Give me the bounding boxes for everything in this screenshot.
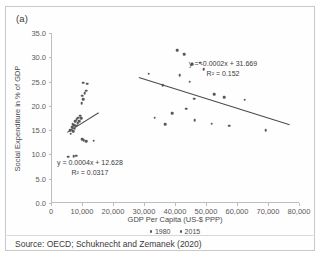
data-point-2015 [194, 119, 197, 122]
x-tick [144, 203, 145, 206]
data-point-2015 [210, 123, 213, 126]
data-point-2015 [176, 49, 179, 52]
x-tick [113, 203, 114, 206]
data-point-2015 [147, 73, 150, 76]
chart-legend: 19802015 [51, 228, 299, 235]
data-point-2015 [265, 129, 268, 132]
y-tick [49, 57, 52, 58]
y-tick [49, 82, 52, 83]
legend-marker-icon [150, 230, 153, 233]
x-tick [237, 203, 238, 206]
legend-item-1980[interactable]: 1980 [150, 228, 171, 235]
data-point-2015 [154, 116, 157, 119]
y-tick [49, 179, 52, 180]
y-axis-line [51, 33, 52, 203]
data-point-2015 [189, 80, 192, 83]
plot-frame: 0.05.010.015.020.025.030.035.0 010,00020… [51, 33, 299, 203]
data-point-2015 [185, 107, 188, 110]
x-tick [175, 203, 176, 206]
trendline-equation-2015: y = -0.0002x + 31.669R² = 0.152 [189, 59, 257, 79]
trendline-equation-1980: y = 0.0004x + 12.628R² = 0.0317 [57, 158, 123, 178]
y-tick [49, 33, 52, 34]
y-tick-label: 20.0 [31, 101, 46, 110]
data-point-2015 [243, 98, 246, 101]
data-point-1980 [78, 120, 81, 123]
y-tick-label: 0.0 [36, 199, 46, 208]
panel-label: (a) [16, 13, 28, 24]
legend-marker-icon [180, 230, 183, 233]
y-tick-label: 30.0 [31, 53, 46, 62]
legend-item-2015[interactable]: 2015 [180, 228, 201, 235]
y-axis-title: Social Expenditure in % of GDP [12, 33, 24, 203]
data-point-2015 [223, 96, 226, 99]
legend-label: 2015 [185, 228, 201, 235]
r-squared-text: R² = 0.0317 [57, 168, 123, 178]
x-axis-title: GDP Per Capita (US-$ PPP) [51, 215, 299, 224]
data-point-2015 [193, 97, 196, 100]
y-tick-label: 25.0 [31, 77, 46, 86]
trendline-2015 [139, 77, 290, 125]
data-point-1980 [86, 82, 89, 85]
data-point-1980 [83, 92, 86, 95]
y-tick [49, 130, 52, 131]
data-point-1980 [81, 94, 84, 97]
source-divider [7, 235, 313, 236]
data-point-1980 [82, 98, 85, 101]
source-note: Source: OECD; Schuknecht and Zemanek (20… [15, 239, 202, 249]
data-point-2015 [164, 123, 167, 126]
y-axis-title-text: Social Expenditure in % of GDP [14, 65, 23, 171]
y-tick [49, 154, 52, 155]
x-tick [299, 203, 300, 206]
y-tick-label: 10.0 [31, 150, 46, 159]
y-tick-label: 15.0 [31, 126, 46, 135]
x-tick [51, 203, 52, 206]
data-point-2015 [213, 93, 216, 96]
legend-label: 1980 [155, 228, 171, 235]
figure-panel: (a) Social Expenditure in % of GDP 0.05.… [5, 6, 315, 251]
data-point-1980 [80, 117, 83, 120]
data-point-2015 [178, 74, 181, 77]
r-squared-text: R² = 0.152 [189, 69, 257, 79]
scatter-plot-area: 0.05.010.015.020.025.030.035.0 010,00020… [51, 33, 299, 203]
data-point-1980 [80, 102, 83, 105]
y-tick-label: 35.0 [31, 29, 46, 38]
data-point-1980 [85, 90, 88, 93]
equation-text: y = -0.0002x + 31.669 [189, 59, 257, 69]
data-point-1980 [75, 155, 78, 158]
data-point-2015 [171, 112, 174, 115]
y-tick-label: 5.0 [36, 174, 46, 183]
data-point-1980 [92, 140, 95, 143]
x-tick [206, 203, 207, 206]
y-tick [49, 106, 52, 107]
data-point-2015 [183, 53, 186, 56]
equation-text: y = 0.0004x + 12.628 [57, 158, 123, 168]
x-tick [268, 203, 269, 206]
data-point-1980 [85, 140, 88, 143]
data-point-1980 [70, 132, 73, 135]
x-tick [82, 203, 83, 206]
data-point-1980 [72, 130, 75, 133]
data-point-1980 [82, 81, 85, 84]
data-point-2015 [228, 124, 231, 127]
